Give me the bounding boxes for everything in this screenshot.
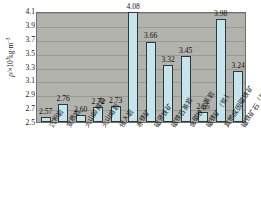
bar-value-label: 2.76	[57, 95, 70, 103]
bar-slot: 3.66	[142, 13, 160, 122]
y-tick-label: 3.3	[26, 64, 36, 72]
y-tick-label: 3.5	[26, 50, 36, 58]
y-tick-label: 3.9	[26, 22, 36, 30]
y-axis-unit-exponent: −3	[5, 38, 11, 43]
bar-value-label: 3.66	[144, 32, 157, 40]
bar-value-label: 3.45	[179, 47, 192, 55]
y-tick-label: 2.9	[26, 91, 36, 99]
y-tick-label: 4.1	[26, 8, 36, 16]
bar-value-label: 3.24	[232, 62, 245, 70]
bar-slot: 2.60	[72, 13, 90, 122]
y-axis-tick-labels: 2.52.72.93.13.33.53.73.94.1	[12, 12, 36, 123]
bar-value-label: 3.32	[162, 56, 175, 64]
bar-value-label: 3.98	[214, 10, 227, 18]
bar-slot: 2.57	[37, 13, 55, 122]
y-axis-exponent: 3	[5, 58, 11, 60]
bar[interactable]	[128, 12, 138, 122]
y-tick-label: 3.7	[26, 36, 36, 44]
bar-value-label: 4.08	[127, 3, 140, 11]
y-tick-label: 3.1	[26, 78, 36, 86]
y-tick-label: 2.7	[26, 105, 36, 113]
bar-chart: ρ/×103kg·m−3 2.52.72.93.13.33.53.73.94.1…	[0, 0, 261, 198]
y-tick-label: 2.5	[26, 119, 36, 127]
x-axis-category-labels: 沉积岩变质岩火山碎屑岩火山熔岩侵入岩赤铁矿磁贤铁矿磁铁石英岩含磁铁石英岩磁铁矿（…	[36, 124, 246, 198]
